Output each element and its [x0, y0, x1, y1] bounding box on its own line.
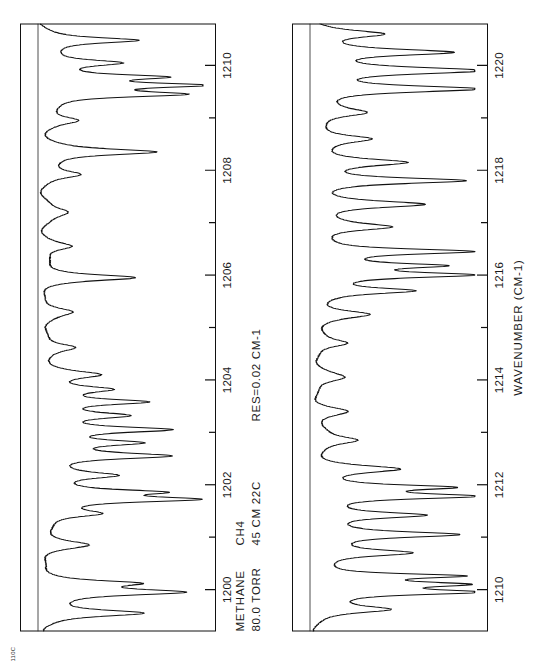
figure-corner-code: 110C — [10, 646, 16, 661]
x-tick-label: 1208 — [221, 156, 233, 183]
header-resolution: RES=0.02 CM-1 — [250, 328, 262, 421]
spectrum-panel-lower — [292, 23, 488, 631]
x-tick-label: 1200 — [221, 576, 233, 603]
header-formula: CH4 — [234, 520, 246, 545]
spectrum-panel-upper — [20, 23, 216, 631]
x-tick-label: 1212 — [493, 471, 505, 498]
x-tick-label: 1204 — [221, 366, 233, 393]
x-axis-title: WAVENUMBER (CM-1) — [512, 259, 524, 396]
x-tick-label: 1214 — [493, 366, 505, 393]
header-pathlength-temp: 45 CM 22C — [250, 481, 262, 545]
x-tick-label: 1216 — [493, 261, 505, 288]
header-sample-name: METHANE — [234, 570, 246, 631]
x-tick-label: 1220 — [493, 52, 505, 79]
spectrum-trace-lower — [292, 23, 488, 631]
spectrum-trace-upper — [20, 23, 216, 631]
x-tick-label: 1206 — [221, 261, 233, 288]
x-tick-label: 1218 — [493, 156, 505, 183]
figure-stage: 120012021204120612081210 121012121214121… — [0, 0, 554, 667]
header-pressure: 80.0 TORR — [250, 567, 262, 631]
x-tick-label: 1202 — [221, 471, 233, 498]
x-tick-label: 1210 — [493, 576, 505, 603]
x-tick-label: 1210 — [221, 52, 233, 79]
